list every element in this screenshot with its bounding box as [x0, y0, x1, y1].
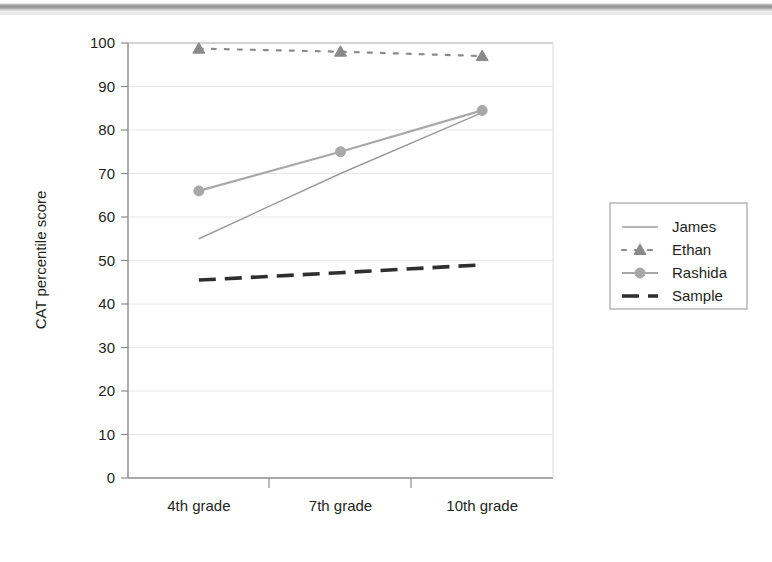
- x-axis-category-labels: 4th grade7th grade10th grade: [167, 497, 518, 514]
- data-point-marker: [477, 105, 487, 115]
- line-chart: 0102030405060708090100 4th grade7th grad…: [0, 0, 772, 562]
- y-tick-label: 10: [98, 426, 115, 443]
- data-point-marker: [194, 186, 204, 196]
- y-tick-label: 0: [107, 469, 115, 486]
- chart-legend: JamesEthanRashidaSample: [610, 203, 747, 309]
- legend-label: Ethan: [672, 241, 711, 258]
- y-tick-label: 30: [98, 339, 115, 356]
- y-tick-label: 40: [98, 295, 115, 312]
- y-axis-ticks: 0102030405060708090100: [90, 34, 128, 486]
- x-category-label: 7th grade: [309, 497, 372, 514]
- x-category-label: 10th grade: [446, 497, 518, 514]
- y-tick-label: 80: [98, 121, 115, 138]
- chart-figure: 0102030405060708090100 4th grade7th grad…: [0, 0, 772, 562]
- data-point-marker: [635, 268, 645, 278]
- y-tick-label: 70: [98, 165, 115, 182]
- y-tick-label: 100: [90, 34, 115, 51]
- legend-label: Rashida: [672, 264, 728, 281]
- scan-artifact-band-secondary: [0, 12, 772, 15]
- y-tick-label: 20: [98, 382, 115, 399]
- y-tick-label: 60: [98, 208, 115, 225]
- scan-artifact-band: [0, 3, 772, 12]
- legend-label: Sample: [672, 287, 723, 304]
- data-point-marker: [336, 147, 346, 157]
- y-tick-label: 90: [98, 78, 115, 95]
- x-axis-ticks: [269, 478, 411, 488]
- y-tick-label: 50: [98, 252, 115, 269]
- y-axis-title: CAT percentile score: [32, 191, 49, 330]
- x-category-label: 4th grade: [167, 497, 230, 514]
- legend-label: James: [672, 218, 716, 235]
